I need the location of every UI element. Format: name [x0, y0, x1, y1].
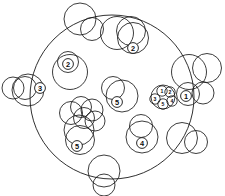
overlap-circle — [167, 123, 198, 154]
overlap-circle — [64, 3, 96, 35]
overlap-circle — [193, 54, 222, 83]
overlap-circle — [81, 99, 103, 121]
micro-cluster-label: 4 — [171, 98, 174, 104]
overlap-circle — [192, 82, 214, 104]
overlap-circle — [130, 115, 153, 138]
overlap-circle — [185, 131, 208, 154]
micro-cluster-label: 2 — [169, 89, 172, 95]
overlap-circle — [88, 155, 120, 187]
marker-label-1: 1 — [184, 92, 188, 101]
micro-cluster-label: 5 — [162, 101, 165, 107]
overlap-circle — [172, 55, 207, 90]
overlap-circle — [64, 115, 94, 145]
overlap-circle — [14, 77, 37, 100]
marker-label-3: 3 — [38, 84, 42, 93]
micro-cluster: 12345 — [150, 85, 177, 109]
overlap-circle — [106, 80, 138, 112]
marker-label-5: 5 — [115, 98, 119, 107]
marker-label-5: 5 — [75, 142, 79, 151]
figure-root: 12345 1223554 — [0, 0, 225, 196]
marker-label-2: 2 — [66, 60, 70, 69]
marker-label-2: 2 — [131, 44, 135, 53]
micro-cluster-label: 3 — [154, 96, 157, 102]
micro-cluster-label: 1 — [161, 88, 164, 94]
circle-diagram-canvas: 12345 1223554 — [0, 0, 225, 196]
